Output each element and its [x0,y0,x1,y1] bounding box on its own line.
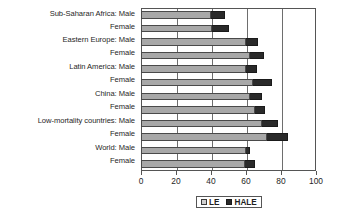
category-label: Female [110,49,135,57]
category-label: Female [110,23,135,31]
gridline-20 [177,9,178,170]
gridline-60 [247,9,248,170]
category-label: Sub-Saharan Africa: Male [50,10,135,18]
legend-label-le: LE [209,198,219,207]
x-axis-tick [281,171,282,175]
x-axis-tick-label: 80 [276,176,285,186]
legend-swatch-hale-icon [226,199,232,205]
plot-area [141,8,316,171]
x-axis-tick-label: 100 [309,176,323,186]
x-axis-tick [141,171,142,175]
x-axis-tick [316,171,317,175]
gridline-40 [212,9,213,170]
category-axis-labels: Sub-Saharan Africa: Male Female Eastern … [0,8,138,171]
category-label: Latin America: Male [69,63,135,71]
category-label: Female [110,103,135,111]
x-axis-tick-label: 0 [139,176,144,186]
x-axis-tick [176,171,177,175]
gridline-80 [282,9,283,170]
x-axis-tick-label: 40 [206,176,215,186]
legend-label-hale: HALE [234,198,256,207]
category-label: Female [110,157,135,165]
legend-item-hale: HALE [226,198,256,207]
x-axis-tick [211,171,212,175]
x-axis: 020406080100 [141,171,316,189]
category-label: Eastern Europe: Male [63,36,135,44]
x-axis-tick [246,171,247,175]
category-label: World: Male [95,144,135,152]
chart-legend: LE HALE [196,196,262,208]
category-label: Female [110,130,135,138]
category-label: Female [110,76,135,84]
x-axis-tick-label: 20 [171,176,180,186]
legend-item-le: LE [201,198,219,207]
chart-screenshot: Sub-Saharan Africa: Male Female Eastern … [0,0,346,217]
category-label: Low-mortality countries: Male [38,117,135,125]
x-axis-tick-label: 60 [241,176,250,186]
category-label: China: Male [95,90,135,98]
legend-swatch-le-icon [201,199,207,205]
